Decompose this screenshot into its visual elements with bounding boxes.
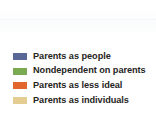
legend-swatch-nondependent-on-parents bbox=[13, 68, 27, 75]
legend-item[interactable]: Parents as less ideal bbox=[13, 78, 156, 93]
legend-swatch-parents-as-people bbox=[13, 53, 27, 60]
legend-swatch-parents-as-individuals bbox=[13, 97, 27, 104]
legend-item[interactable]: Parents as people bbox=[13, 49, 156, 64]
legend-item[interactable]: Nondependent on parents bbox=[13, 64, 156, 79]
legend-item-label: Parents as individuals bbox=[33, 96, 129, 105]
legend-item-label: Nondependent on parents bbox=[33, 66, 146, 75]
legend-item-label: Parents as people bbox=[33, 52, 111, 61]
scan-line-artifact bbox=[0, 19, 156, 20]
legend-swatch-parents-as-less-ideal bbox=[13, 82, 27, 89]
scan-haze-artifact bbox=[0, 0, 156, 46]
legend-item-label: Parents as less ideal bbox=[33, 81, 122, 90]
legend-item[interactable]: Parents as individuals bbox=[13, 93, 156, 108]
chart-legend: Parents as people Nondependent on parent… bbox=[13, 49, 156, 108]
